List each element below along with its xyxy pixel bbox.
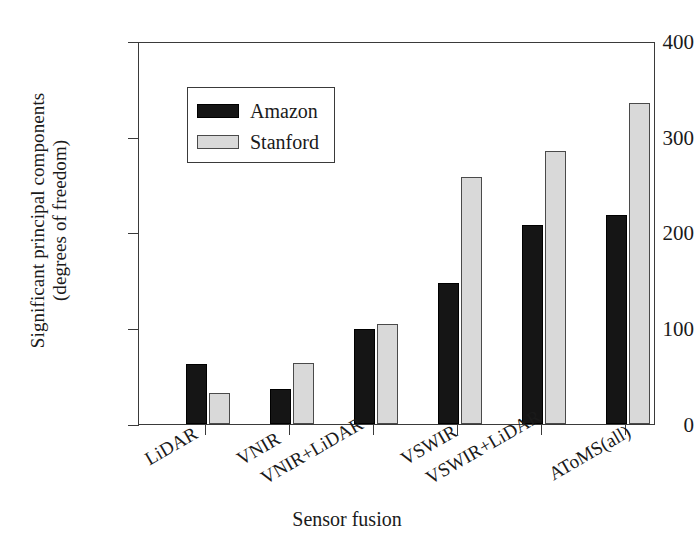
- bar-stanford-vnir-lidar: [377, 324, 398, 424]
- legend-swatch-stanford-icon: [197, 135, 239, 149]
- x-tick-mark-vnir-lidar: [373, 425, 374, 435]
- bar-stanford-vswir-lidar: [545, 151, 566, 424]
- legend-entry-amazon: Amazon: [188, 95, 334, 126]
- bar-stanford-vnir: [293, 363, 314, 424]
- bar-amazon-vnir: [270, 389, 291, 424]
- bar-stanford-lidar: [209, 393, 230, 424]
- x-axis-title: Sensor fusion: [0, 508, 694, 531]
- bar-stanford-vswir: [461, 177, 482, 424]
- legend: Amazon Stanford: [187, 87, 335, 163]
- bar-amazon-atoms-all: [606, 215, 627, 424]
- y-axis-title-line2: (degrees of freedom): [50, 92, 72, 347]
- y-axis-title: Significant principal components (degree…: [0, 0, 100, 440]
- bar-stanford-atoms-all: [629, 103, 650, 424]
- y-axis-title-line1: Significant principal components: [28, 92, 49, 347]
- legend-label-stanford: Stanford: [250, 132, 319, 152]
- bar-amazon-vswir-lidar: [522, 225, 543, 424]
- bar-amazon-lidar: [186, 364, 207, 424]
- legend-label-amazon: Amazon: [250, 101, 318, 121]
- x-tick-mark-lidar: [205, 425, 206, 435]
- bar-chart-figure: Significant principal components (degree…: [0, 0, 694, 552]
- x-tick-label-atoms-all: AToMS(all): [545, 421, 634, 485]
- legend-swatch-amazon-icon: [197, 104, 239, 118]
- x-tick-label-lidar: LiDAR: [141, 423, 201, 471]
- y-tick-mark-0: [128, 425, 139, 426]
- legend-entry-stanford: Stanford: [188, 126, 334, 157]
- bar-amazon-vswir: [438, 283, 459, 424]
- x-tick-mark-vnir: [289, 425, 290, 435]
- bar-amazon-vnir-lidar: [354, 329, 375, 424]
